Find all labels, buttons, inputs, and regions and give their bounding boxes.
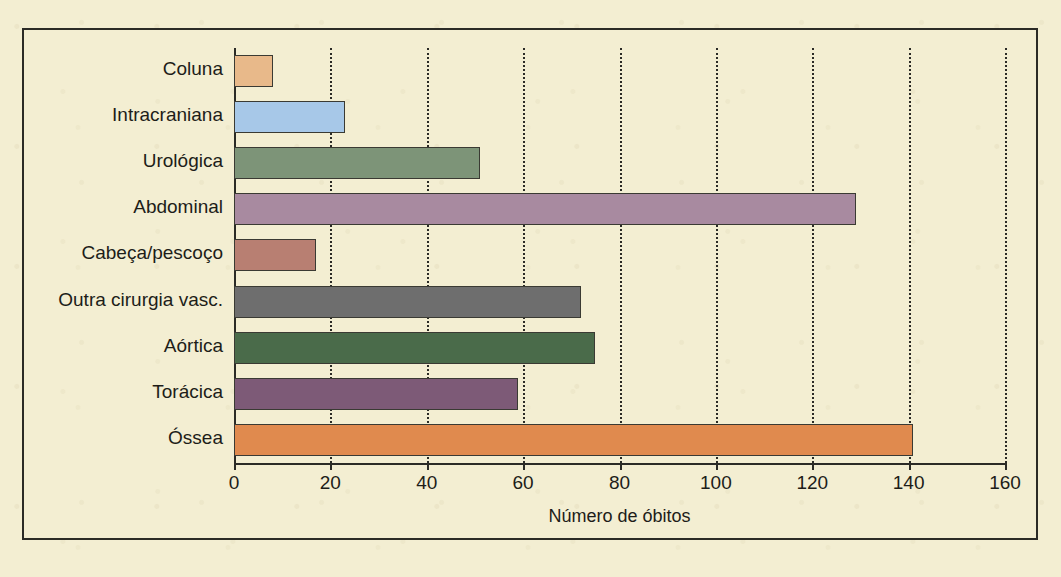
- category-label-5: Cabeça/pescoço: [81, 242, 223, 264]
- tickmark-160: [1005, 463, 1007, 470]
- category-label-6: Outra cirurgia vasc.: [58, 289, 223, 311]
- tickmark-60: [523, 463, 525, 470]
- bar-4[interactable]: [234, 193, 856, 225]
- bar-row: Cabeça/pescoço: [234, 232, 1005, 278]
- bar-row: Intracraniana: [234, 94, 1005, 140]
- x-tick-label-20: 20: [320, 472, 341, 494]
- category-label-3: Urológica: [143, 150, 223, 172]
- x-tick-label-60: 60: [513, 472, 534, 494]
- tickmark-0: [234, 463, 236, 470]
- tickmark-80: [620, 463, 622, 470]
- tickmark-120: [812, 463, 814, 470]
- bar-8[interactable]: [234, 378, 518, 410]
- bar-9[interactable]: [234, 424, 913, 456]
- bar-2[interactable]: [234, 101, 345, 133]
- category-label-9: Óssea: [168, 427, 223, 449]
- bar-row: Outra cirurgia vasc.: [234, 279, 1005, 325]
- bar-row: Coluna: [234, 48, 1005, 94]
- x-tick-label-120: 120: [796, 472, 828, 494]
- x-tick-label-40: 40: [416, 472, 437, 494]
- tickmark-100: [716, 463, 718, 470]
- bar-row: Óssea: [234, 417, 1005, 463]
- gridline-160: [1005, 48, 1007, 463]
- tickmark-140: [909, 463, 911, 470]
- x-axis-title: Número de óbitos: [234, 506, 1005, 527]
- category-label-7: Aórtica: [164, 335, 223, 357]
- bar-6[interactable]: [234, 286, 581, 318]
- bar-5[interactable]: [234, 239, 316, 271]
- category-label-8: Torácica: [152, 381, 223, 403]
- bar-3[interactable]: [234, 147, 480, 179]
- bar-7[interactable]: [234, 332, 595, 364]
- bar-row: Abdominal: [234, 186, 1005, 232]
- bar-row: Torácica: [234, 371, 1005, 417]
- category-label-2: Intracraniana: [112, 104, 223, 126]
- category-label-4: Abdominal: [133, 196, 223, 218]
- plot-area: 020406080100120140160 ColunaIntracranian…: [234, 48, 1005, 463]
- tickmark-20: [330, 463, 332, 470]
- tickmark-40: [427, 463, 429, 470]
- chart-frame: 020406080100120140160 ColunaIntracranian…: [22, 28, 1038, 540]
- bar-row: Urológica: [234, 140, 1005, 186]
- x-tick-label-160: 160: [989, 472, 1021, 494]
- x-tick-label-80: 80: [609, 472, 630, 494]
- x-tick-label-0: 0: [229, 472, 240, 494]
- x-tick-label-140: 140: [893, 472, 925, 494]
- category-label-1: Coluna: [163, 58, 223, 80]
- page-canvas: 020406080100120140160 ColunaIntracranian…: [0, 0, 1061, 577]
- x-tick-label-100: 100: [700, 472, 732, 494]
- bar-1[interactable]: [234, 55, 273, 87]
- bar-row: Aórtica: [234, 325, 1005, 371]
